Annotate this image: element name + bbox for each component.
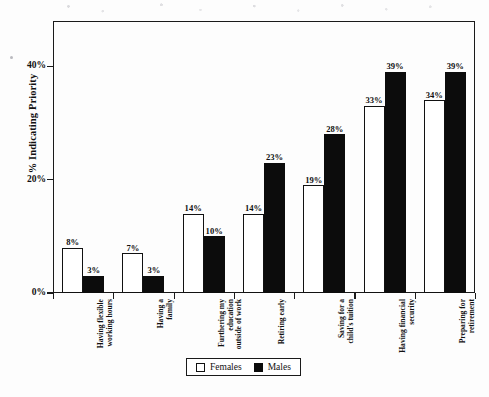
bar-group: 8%3% [53,21,113,293]
bar-males[interactable]: 39% [385,72,406,293]
bar-chart: % Indicating Priority 0%20%40% 8%3%7%3%1… [0,0,489,397]
bar-males[interactable]: 3% [143,276,164,293]
bar-group: 14%23% [234,21,294,293]
category-label-line: Having financial [399,299,408,373]
bar-value-label: 3% [87,266,100,275]
category-label: Saving for achild's tuition [338,299,355,373]
bar-males[interactable]: 3% [83,276,104,293]
bar-value-label: 19% [305,176,322,185]
bar-group: 34%39% [415,21,475,293]
bar-value-label: 3% [147,266,160,275]
legend-swatch-females-icon [196,363,205,372]
bar-females[interactable]: 14% [183,214,204,293]
category-label-line: child's tuition [347,299,356,373]
x-axis-tick-mark [294,293,295,299]
bar-value-label: 23% [266,153,283,162]
bar-value-label: 33% [365,96,382,105]
category-label: Having financialsecurity [399,299,416,373]
bar-females[interactable]: 19% [303,185,324,293]
x-axis-tick-mark [53,293,54,299]
legend-label-males: Males [268,362,291,372]
y-axis-tick-label: 0% [0,287,53,297]
bar-value-label: 14% [245,204,262,213]
bar-group: 33%39% [354,21,414,293]
bar-value-label: 8% [66,238,79,247]
bar-females[interactable]: 14% [243,214,264,293]
category-label-line: family [166,299,175,373]
bar-value-label: 28% [326,125,343,134]
category-label-line: security [407,299,416,373]
bars-layer: 8%3%7%3%14%10%14%23%19%28%33%39%34%39% [53,21,475,293]
category-label: Having afamily [157,299,174,373]
bar-males[interactable]: 23% [264,163,285,293]
y-axis-tick-label: 40% [0,60,53,70]
category-label-line: retirement [467,299,476,373]
category-label: Having flexibleworking hours [97,299,114,373]
bar-value-label: 14% [185,204,202,213]
bar-males[interactable]: 39% [445,72,466,293]
bar-females[interactable]: 8% [62,248,83,293]
y-axis-tick-label: 20% [0,174,53,184]
bar-females[interactable]: 33% [364,106,385,293]
legend-swatch-males-icon [254,363,263,372]
legend-item-males: Males [254,362,291,372]
bar-group: 19%28% [294,21,354,293]
bar-value-label: 7% [126,244,139,253]
legend-item-females: Females [196,362,242,372]
bar-value-label: 34% [426,91,443,100]
chart-legend: Females Males [186,358,301,376]
bar-males[interactable]: 10% [204,236,225,293]
bar-males[interactable]: 28% [324,134,345,293]
category-label: Preparing forretirement [459,299,476,373]
legend-label-females: Females [210,362,242,372]
category-label-line: working hours [106,299,115,373]
bar-females[interactable]: 7% [122,253,143,293]
bar-females[interactable]: 34% [424,100,445,293]
bar-value-label: 10% [206,227,223,236]
bar-value-label: 39% [386,62,403,71]
bar-group: 14%10% [174,21,234,293]
bar-group: 7%3% [113,21,173,293]
bar-value-label: 39% [447,62,464,71]
